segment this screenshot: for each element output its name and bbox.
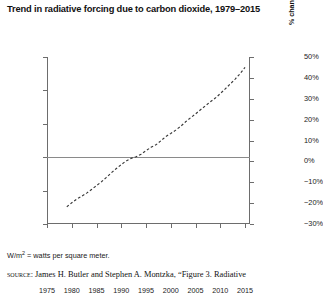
y-axis-left-tick bbox=[43, 157, 47, 158]
x-axis-tick bbox=[47, 224, 48, 228]
y-axis-right-tick-label: −10% bbox=[304, 177, 323, 186]
y-axis-right-tick-label: 50% bbox=[304, 52, 319, 61]
y-axis-right-tick-label: 0% bbox=[304, 156, 315, 165]
source-label: source: bbox=[7, 270, 33, 279]
y-axis-right-tick-label: 10% bbox=[304, 136, 319, 145]
y-axis-right-tick-label: 20% bbox=[304, 115, 319, 124]
y-axis-right-tick-label: 30% bbox=[304, 94, 319, 103]
page-title: Trend in radiative forcing due to carbon… bbox=[7, 4, 299, 15]
x-axis-tick bbox=[171, 224, 172, 228]
y-axis-right-tick bbox=[250, 182, 254, 183]
y-axis-left-tick bbox=[43, 90, 47, 91]
source-text: James H. Butler and Stephen A. Montzka, … bbox=[35, 270, 246, 279]
y-axis-right-title: % change relative to 1990 bbox=[288, 0, 296, 25]
x-axis-tick bbox=[121, 224, 122, 228]
data-series-line bbox=[67, 67, 245, 206]
x-axis-tick bbox=[146, 224, 147, 228]
x-axis-tick bbox=[196, 224, 197, 228]
footnote-text: = watts per square meter. bbox=[27, 251, 110, 260]
y-axis-left-tick bbox=[43, 124, 47, 125]
y-axis-right-tick bbox=[250, 57, 254, 58]
y-axis-right-tick bbox=[250, 78, 254, 79]
y-axis-left-tick bbox=[43, 191, 47, 192]
chart-plot-svg bbox=[47, 57, 250, 224]
x-axis-tick-label: 2015 bbox=[230, 286, 260, 295]
y-axis-right-tick-label: −30% bbox=[304, 219, 323, 228]
y-axis-right-tick bbox=[250, 99, 254, 100]
y-axis-right-tick bbox=[250, 224, 254, 225]
x-axis-tick bbox=[220, 224, 221, 228]
footnote: W/m2 = watts per square meter. bbox=[7, 250, 110, 260]
x-axis-tick bbox=[72, 224, 73, 228]
x-axis-tick bbox=[97, 224, 98, 228]
source-citation: source: James H. Butler and Stephen A. M… bbox=[7, 270, 302, 279]
y-axis-right-tick-label: −20% bbox=[304, 198, 323, 207]
y-axis-right-tick bbox=[250, 203, 254, 204]
y-axis-right-tick-label: 40% bbox=[304, 73, 319, 82]
y-axis-right-tick bbox=[250, 141, 254, 142]
y-axis-left-tick bbox=[43, 57, 47, 58]
footnote-unit: W/m2 bbox=[7, 251, 25, 260]
plot-area: 0.91.11.31.51.71.9 −30%−20%−10%0%10%20%3… bbox=[47, 57, 250, 224]
y-axis-right-tick bbox=[250, 120, 254, 121]
x-axis-tick bbox=[245, 224, 246, 228]
y-axis-right-tick bbox=[250, 161, 254, 162]
